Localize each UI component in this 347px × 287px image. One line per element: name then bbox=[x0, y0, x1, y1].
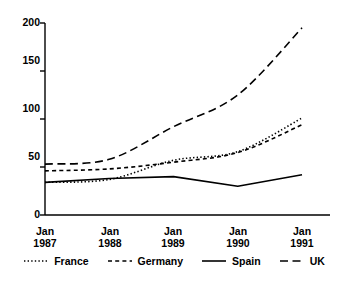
legend-item-france[interactable]: France bbox=[23, 255, 88, 267]
series-line-france bbox=[45, 118, 302, 182]
legend-swatch-france-dotted-line-icon bbox=[23, 256, 49, 266]
data-series-group bbox=[45, 28, 302, 186]
legend-label-germany: Germany bbox=[138, 255, 184, 267]
line-chart: 200 150 100 50 0 Jan 1987 Jan 1988 Jan 1… bbox=[0, 0, 347, 287]
series-line-spain bbox=[45, 175, 302, 187]
plot-area bbox=[0, 0, 347, 287]
legend-label-france: France bbox=[54, 255, 88, 267]
chart-legend: France Germany Spain UK bbox=[22, 251, 326, 271]
y-axis-ticks bbox=[40, 23, 45, 215]
legend-label-uk: UK bbox=[310, 255, 325, 267]
legend-swatch-germany-dashed-line-icon bbox=[107, 256, 133, 266]
legend-label-spain: Spain bbox=[232, 255, 261, 267]
series-line-uk bbox=[45, 28, 302, 164]
legend-item-spain[interactable]: Spain bbox=[201, 255, 261, 267]
legend-swatch-spain-solid-line-icon bbox=[201, 256, 227, 266]
legend-item-germany[interactable]: Germany bbox=[107, 255, 184, 267]
legend-item-uk[interactable]: UK bbox=[279, 255, 325, 267]
legend-swatch-uk-long-dash-line-icon bbox=[279, 256, 305, 266]
